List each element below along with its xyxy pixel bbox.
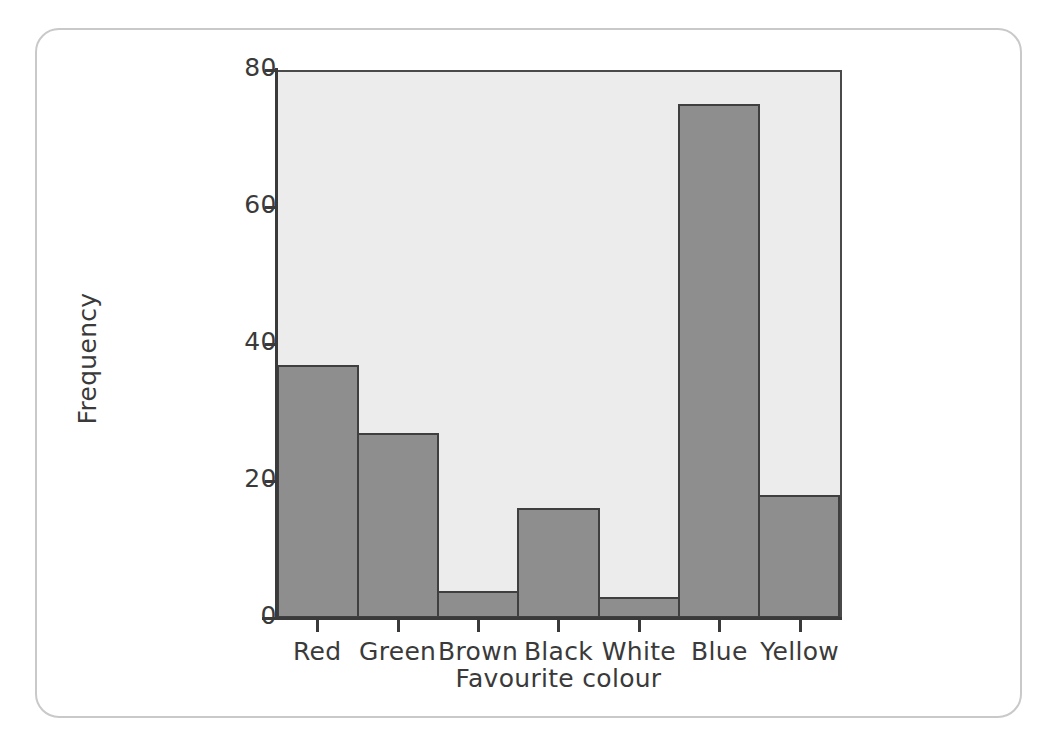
y-tick-mark — [265, 617, 276, 620]
x-tick-label: Blue — [691, 637, 748, 666]
x-tick-mark — [557, 620, 560, 632]
x-tick-label: Black — [524, 637, 593, 666]
x-tick-label: Yellow — [760, 637, 839, 666]
x-tick-label: Red — [293, 637, 341, 666]
x-tick-mark — [638, 620, 641, 632]
x-tick-mark — [316, 620, 319, 632]
y-tick-mark — [265, 343, 276, 346]
y-tick-mark — [265, 206, 276, 209]
y-axis-title: Frequency — [73, 209, 102, 509]
x-tick-mark — [799, 620, 802, 632]
bar-chart-figure: 80 60 40 20 0 Red Green Brown — [0, 0, 1052, 744]
page-root: 80 60 40 20 0 Red Green Brown — [0, 0, 1052, 744]
x-tick-mark — [397, 620, 400, 632]
y-tick-mark — [265, 480, 276, 483]
x-tick-label: Brown — [438, 637, 518, 666]
x-tick-mark — [477, 620, 480, 632]
x-axis-title: Favourite colour — [277, 664, 840, 693]
x-tick-mark — [718, 620, 721, 632]
y-tick-mark — [265, 69, 276, 72]
x-tick-label: Green — [359, 637, 436, 666]
x-tick-label: White — [602, 637, 676, 666]
